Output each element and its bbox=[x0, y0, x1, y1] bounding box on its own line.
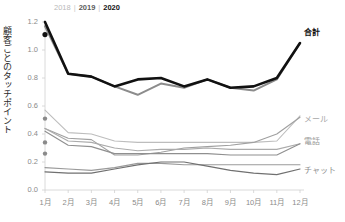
data-point-marker bbox=[42, 32, 47, 37]
data-point-marker bbox=[43, 151, 47, 155]
series-label-phone: 電話 bbox=[304, 135, 320, 146]
plot-area bbox=[0, 0, 345, 222]
series-line bbox=[45, 163, 300, 170]
series-line bbox=[45, 110, 300, 142]
data-point-marker bbox=[43, 116, 47, 120]
line-chart: 顧客ごとのタッチポイント 2018 | 2019 | 2020 1.21.00.… bbox=[0, 0, 345, 222]
series-label-total: 合計 bbox=[304, 26, 320, 37]
series-line bbox=[45, 131, 300, 155]
series-line bbox=[45, 22, 300, 88]
series-label-chat: チャット bbox=[304, 164, 336, 175]
data-point-marker bbox=[43, 140, 47, 144]
series-label-mail: メール bbox=[304, 113, 328, 124]
